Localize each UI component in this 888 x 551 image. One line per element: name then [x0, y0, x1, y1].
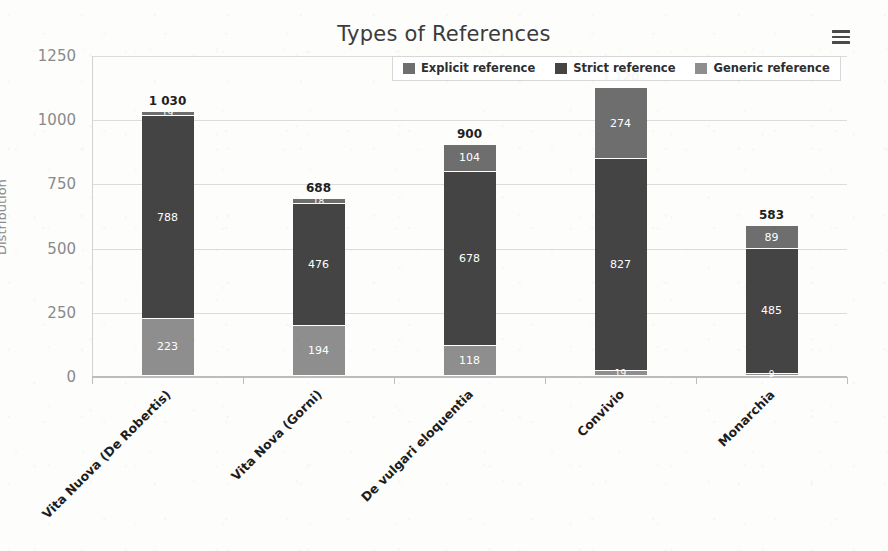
y-axis-tick-label: 500 [20, 240, 76, 258]
bar-total-label: 688 [306, 181, 331, 195]
gridline [92, 377, 847, 378]
chart-legend: Explicit referenceStrict referenceGeneri… [392, 56, 841, 81]
bar-segment[interactable]: 476 [293, 204, 345, 326]
bar-segment[interactable]: 118 [444, 346, 496, 376]
bar-segment-value: 104 [459, 152, 480, 163]
bar-segment[interactable]: 104 [444, 145, 496, 172]
bar-group[interactable]: 274827191 120 [595, 88, 647, 376]
bar-segment-value: 19 [615, 369, 626, 378]
bar-segment-value: 485 [761, 305, 782, 316]
bar-segment[interactable]: 89 [746, 226, 798, 249]
y-axis-title: Distribution [0, 179, 9, 255]
y-axis-tick-label: 1000 [20, 111, 76, 129]
bar-group[interactable]: 894859583 [746, 226, 798, 376]
x-axis-tick [92, 377, 93, 384]
bar-segment[interactable]: 19 [595, 371, 647, 376]
menu-line [832, 30, 850, 33]
x-axis-category-label: Convivio [574, 387, 627, 440]
bar-segment-value: 827 [610, 259, 631, 270]
x-axis-category-label: Vita Nuova (De Robertis) [39, 387, 174, 522]
bar-total-label: 583 [759, 208, 784, 222]
y-axis-tick-label: 250 [20, 304, 76, 322]
legend-label: Explicit reference [421, 61, 535, 75]
bar-segment-value: 89 [765, 232, 779, 243]
bar-segment[interactable]: 485 [746, 249, 798, 374]
x-axis-category-label: Vita Nova (Gorni) [228, 387, 325, 484]
bar-segment-value: 9 [769, 370, 775, 379]
legend-item-explicit-reference[interactable]: Explicit reference [403, 61, 535, 75]
legend-label: Strict reference [573, 61, 675, 75]
legend-swatch-icon [555, 63, 567, 74]
y-axis-line [92, 56, 93, 377]
bar-segment-value: 118 [459, 355, 480, 366]
bar-group[interactable]: 18476194688 [293, 199, 345, 376]
y-axis-tick-label: 0 [20, 368, 76, 386]
chart-title: Types of References [0, 22, 888, 46]
bar-segment-value: 274 [610, 118, 631, 129]
legend-swatch-icon [403, 63, 415, 74]
legend-item-strict-reference[interactable]: Strict reference [555, 61, 675, 75]
x-axis-tick [847, 377, 848, 384]
legend-item-generic-reference[interactable]: Generic reference [695, 61, 829, 75]
hamburger-menu-icon[interactable] [832, 30, 850, 44]
bar-total-label: 1 030 [149, 94, 187, 108]
bar-segment-value: 788 [157, 212, 178, 223]
menu-line [832, 41, 850, 44]
menu-line [832, 36, 850, 39]
bar-segment[interactable]: 274 [595, 88, 647, 158]
x-axis-line [92, 376, 847, 377]
x-axis-tick [394, 377, 395, 384]
bar-group[interactable]: 104678118900 [444, 145, 496, 376]
bar-segment[interactable]: 223 [142, 319, 194, 376]
x-axis-tick [696, 377, 697, 384]
bar-segment-value: 678 [459, 253, 480, 264]
bar-group[interactable]: 197882231 030 [142, 112, 194, 376]
y-axis-tick-label: 1250 [20, 47, 76, 65]
bar-total-label: 900 [457, 127, 482, 141]
x-axis-category-label: Monarchia [715, 387, 778, 450]
legend-swatch-icon [695, 63, 707, 74]
bar-segment-value: 223 [157, 341, 178, 352]
gridline [92, 120, 847, 121]
y-axis-tick-label: 750 [20, 175, 76, 193]
bar-segment-value: 476 [308, 259, 329, 270]
bar-segment[interactable]: 194 [293, 326, 345, 376]
bar-segment[interactable]: 9 [746, 374, 798, 376]
legend-label: Generic reference [713, 61, 829, 75]
x-axis-tick [243, 377, 244, 384]
x-axis-tick [545, 377, 546, 384]
bar-segment[interactable]: 788 [142, 116, 194, 318]
y-axis-tick-labels: 025050075010001250 [14, 56, 76, 377]
bar-segment[interactable]: 678 [444, 172, 496, 346]
chart-container: Types of References Distribution 0250500… [0, 0, 888, 551]
bar-segment[interactable]: 827 [595, 159, 647, 371]
bar-segment-value: 194 [308, 345, 329, 356]
x-axis-category-label: De vulgari eloquentia [358, 387, 476, 505]
plot-area: 197882231 030184761946881046781189002748… [92, 56, 847, 377]
